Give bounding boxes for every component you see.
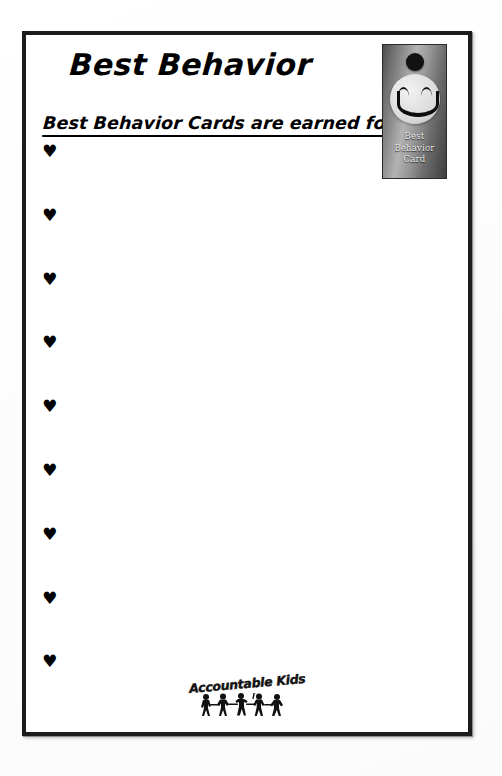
children-silhouettes-icon (197, 693, 297, 717)
brand-logo: Accountable Kids (189, 676, 305, 720)
bullet-write-in-line[interactable] (68, 271, 436, 287)
list-item: ♥ (42, 143, 442, 207)
list-item: ♥ (42, 334, 442, 398)
bullet-write-in-line[interactable] (68, 653, 436, 669)
smiley-face-icon (390, 74, 440, 124)
heart-icon: ♥ (42, 653, 58, 669)
heart-icon: ♥ (42, 398, 58, 414)
heart-icon: ♥ (42, 462, 58, 478)
heart-icon: ♥ (42, 207, 58, 223)
list-item: ♥ (42, 271, 442, 335)
list-item: ♥ (42, 462, 442, 526)
bullet-write-in-line[interactable] (68, 526, 436, 542)
printable-sheet-frame: Best Behavior Best Behavior Cards are ea… (22, 31, 472, 736)
heart-icon: ♥ (42, 590, 58, 606)
page-title: Best Behavior (25, 47, 357, 82)
card-caption-line-1: Best (383, 131, 446, 143)
list-item: ♥ (42, 526, 442, 590)
heart-icon: ♥ (42, 271, 58, 287)
behavior-bullet-list: ♥ ♥ ♥ ♥ ♥ ♥ ♥ (42, 143, 442, 717)
bullet-write-in-line[interactable] (68, 462, 436, 478)
heart-icon: ♥ (42, 526, 58, 542)
section-subtitle: Best Behavior Cards are earned for: (42, 113, 402, 137)
list-item: ♥ (42, 398, 442, 462)
bullet-write-in-line[interactable] (68, 143, 436, 159)
bullet-write-in-line[interactable] (68, 590, 436, 606)
bullet-write-in-line[interactable] (68, 334, 436, 350)
list-item: ♥ (42, 590, 442, 654)
sheet-inner-area: Best Behavior Best Behavior Cards are ea… (26, 35, 468, 732)
heart-icon: ♥ (42, 334, 58, 350)
list-item: ♥ (42, 207, 442, 271)
bullet-write-in-line[interactable] (68, 398, 436, 414)
punch-hole-icon (406, 53, 424, 71)
heart-icon: ♥ (42, 143, 58, 159)
smiley-mouth-icon (397, 91, 439, 117)
bullet-write-in-line[interactable] (68, 207, 436, 223)
